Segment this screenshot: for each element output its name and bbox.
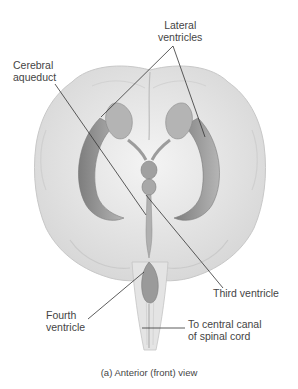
figure-caption: (a) Anterior (front) view xyxy=(0,367,298,378)
label-lateral-ventricles: Lateral ventricles xyxy=(158,19,202,43)
label-cerebral-aqueduct: Cerebral aqueduct xyxy=(13,59,56,83)
label-third-ventricle: Third ventricle xyxy=(213,287,279,299)
label-fourth-ventricle: Fourth ventricle xyxy=(46,309,85,333)
label-central-canal: To central canal of spinal cord xyxy=(188,318,262,342)
